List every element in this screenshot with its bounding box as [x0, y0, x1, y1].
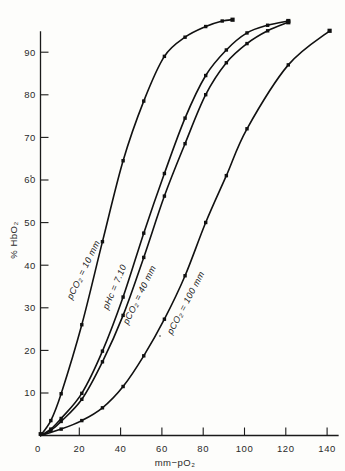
scan-speck: [159, 335, 161, 337]
data-point: [204, 74, 207, 77]
x-tick-label-140: 140: [318, 443, 336, 454]
x-axis-title: mm−pO₂: [155, 457, 196, 468]
y-tick-label-40: 40: [24, 260, 36, 271]
data-point: [266, 24, 269, 27]
y-tick-label-10: 10: [24, 387, 36, 398]
y-tick-label-30: 30: [24, 302, 36, 313]
scan-speck: [30, 175, 32, 177]
data-point: [101, 360, 104, 363]
x-tick-label-80: 80: [197, 443, 209, 454]
data-point: [225, 174, 228, 177]
y-tick-label-70: 70: [24, 132, 36, 143]
series-label-phc-710: pHc = 7.10: [100, 263, 128, 312]
data-point: [142, 354, 145, 357]
data-point: [230, 18, 234, 22]
x-tick-label-120: 120: [277, 443, 295, 454]
series-2: [41, 20, 291, 435]
oxygen-dissociation-chart: 90 80 70 60 50 40 30 20 10 0 20 40 60 80…: [0, 0, 345, 471]
data-point: [183, 35, 186, 38]
data-point: [221, 19, 224, 22]
data-point: [121, 385, 124, 388]
data-point: [328, 29, 332, 33]
series-0: [41, 18, 235, 436]
data-point: [142, 99, 145, 102]
series-1: [41, 19, 291, 436]
data-point: [287, 63, 290, 66]
x-tick-label-100: 100: [236, 443, 254, 454]
y-axis-title: % HbO₂: [8, 221, 19, 258]
y-tick-marks: [41, 52, 49, 393]
y-tick-label-80: 80: [24, 89, 36, 100]
origin-data-point: [39, 432, 43, 436]
data-point: [266, 29, 269, 32]
series-3: [41, 29, 332, 436]
data-point: [163, 194, 166, 197]
x-tick-label-40: 40: [115, 443, 127, 454]
data-point: [245, 42, 248, 45]
curve-line: [41, 21, 289, 436]
data-point: [204, 93, 207, 96]
data-point: [80, 398, 83, 401]
data-point: [80, 323, 83, 326]
data-point: [59, 427, 62, 430]
x-tick-label-0: 0: [35, 443, 41, 454]
data-point: [163, 172, 166, 175]
curve-line: [41, 31, 330, 436]
data-point: [163, 318, 166, 321]
x-tick-label-60: 60: [156, 443, 168, 454]
data-point: [142, 256, 145, 259]
series-label-pco2-100: pCO₂ = 100 mm: [164, 269, 206, 336]
data-point: [49, 419, 52, 422]
data-point: [59, 392, 62, 395]
data-point: [59, 420, 62, 423]
data-point: [121, 295, 124, 298]
data-point: [225, 48, 228, 51]
x-tick-marks: [79, 428, 327, 436]
data-point: [183, 274, 186, 277]
data-point: [121, 159, 124, 162]
series-label-pco2-10: pCO₂ = 10 mm: [64, 238, 102, 301]
data-point: [183, 142, 186, 145]
curve-line: [41, 22, 289, 435]
y-tick-label-90: 90: [24, 47, 36, 58]
data-point: [80, 392, 83, 395]
y-tick-label-50: 50: [24, 217, 36, 228]
data-point: [225, 61, 228, 64]
curves-layer: [39, 18, 332, 436]
data-point: [163, 55, 166, 58]
data-point: [245, 127, 248, 130]
data-point: [204, 25, 207, 28]
data-point: [101, 349, 104, 352]
data-point: [142, 231, 145, 234]
figure-canvas: 90 80 70 60 50 40 30 20 10 0 20 40 60 80…: [0, 0, 345, 471]
y-tick-label-20: 20: [24, 345, 36, 356]
data-point: [80, 419, 83, 422]
data-point: [183, 116, 186, 119]
data-point: [204, 221, 207, 224]
data-point: [286, 20, 290, 24]
x-tick-label-20: 20: [73, 443, 85, 454]
data-point: [101, 406, 104, 409]
data-point: [245, 31, 248, 34]
